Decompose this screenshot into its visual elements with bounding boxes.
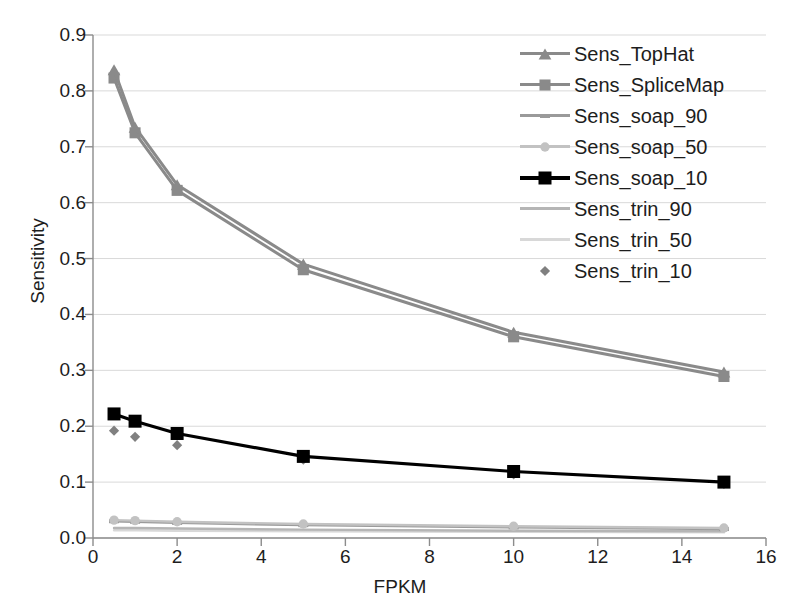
y-axis-title: Sensitivity — [27, 161, 49, 361]
legend-item-label: Sens_trin_90 — [574, 197, 692, 221]
y-tick-label: 0.2 — [34, 415, 86, 437]
x-tick-label: 0 — [68, 546, 118, 568]
data-point-square — [171, 427, 184, 440]
legend-key-icon — [516, 42, 574, 66]
legend-item[interactable]: Sens_soap_90 — [516, 100, 786, 131]
x-tick-label: 6 — [320, 546, 370, 568]
y-tick-label: 0.8 — [34, 80, 86, 102]
x-tick-label: 8 — [405, 546, 455, 568]
legend-item[interactable]: Sens_soap_50 — [516, 131, 786, 162]
data-point-triangle — [108, 64, 121, 75]
legend-item-label: Sens_soap_90 — [574, 104, 707, 128]
data-point-dash — [540, 114, 550, 118]
data-point-square — [717, 476, 730, 489]
series-sens-soap-10 — [108, 407, 731, 488]
data-point-circle — [540, 142, 549, 151]
data-point-circle — [172, 517, 181, 526]
legend-item[interactable]: Sens_trin_90 — [516, 193, 786, 224]
legend-item[interactable]: Sens_soap_10 — [516, 162, 786, 193]
legend-item[interactable]: Sens_trin_10 — [516, 255, 786, 286]
data-point-circle — [109, 515, 118, 524]
series-line — [114, 414, 724, 482]
legend-key-icon — [516, 104, 574, 128]
legend-marker-triangle-icon — [516, 42, 574, 66]
legend-marker-square-icon — [516, 166, 574, 190]
x-tick-label: 12 — [573, 546, 623, 568]
y-tick-label: 0.1 — [34, 471, 86, 493]
data-point-circle — [719, 523, 728, 532]
data-point-square — [507, 465, 520, 478]
data-point-diamond — [109, 426, 119, 436]
legend-item[interactable]: Sens_trin_50 — [516, 224, 786, 255]
data-point-diamond — [172, 440, 182, 450]
data-point-square — [108, 407, 121, 420]
legend-marker-none-icon — [516, 197, 574, 221]
legend-key-icon — [516, 197, 574, 221]
legend-item-label: Sens_trin_10 — [574, 259, 692, 283]
data-point-circle — [299, 519, 308, 528]
legend-marker-diamond-icon — [516, 259, 574, 283]
legend-key-icon — [516, 259, 574, 283]
legend-item-label: Sens_trin_50 — [574, 228, 692, 252]
legend-key-icon — [516, 166, 574, 190]
legend-item-label: Sens_TopHat — [574, 42, 694, 66]
y-tick-label: 0.9 — [34, 24, 86, 46]
data-point-square — [539, 79, 550, 90]
legend-marker-circle-icon — [516, 135, 574, 159]
legend-marker-square-icon — [516, 73, 574, 97]
data-point-circle — [130, 516, 139, 525]
legend-item-label: Sens_soap_50 — [574, 135, 707, 159]
data-point-square — [129, 415, 142, 428]
x-tick-label: 10 — [489, 546, 539, 568]
data-point-diamond — [540, 265, 550, 275]
y-tick-label: 0.3 — [34, 359, 86, 381]
legend-marker-dash-icon — [516, 104, 574, 128]
legend-marker-none-icon — [516, 228, 574, 252]
chart-legend: Sens_TopHatSens_SpliceMapSens_soap_90Sen… — [516, 38, 786, 286]
series-sens-trin-10 — [109, 426, 729, 489]
data-point-square — [539, 171, 552, 184]
x-tick-label: 16 — [741, 546, 791, 568]
data-point-square — [297, 450, 310, 463]
legend-key-icon — [516, 228, 574, 252]
legend-item-label: Sens_SpliceMap — [574, 73, 724, 97]
x-axis-title: FPKM — [0, 576, 800, 598]
y-tick-label: 0.7 — [34, 136, 86, 158]
x-tick-label: 14 — [657, 546, 707, 568]
sensitivity-line-chart: 0.00.10.20.30.40.50.60.70.80.9 024681012… — [0, 0, 800, 616]
data-point-circle — [509, 522, 518, 531]
legend-item-label: Sens_soap_10 — [574, 166, 707, 190]
legend-item[interactable]: Sens_SpliceMap — [516, 69, 786, 100]
legend-key-icon — [516, 135, 574, 159]
data-point-diamond — [130, 432, 140, 442]
legend-item[interactable]: Sens_TopHat — [516, 38, 786, 69]
data-point-triangle — [539, 48, 552, 59]
x-tick-label: 4 — [236, 546, 286, 568]
x-tick-label: 2 — [152, 546, 202, 568]
legend-key-icon — [516, 73, 574, 97]
x-axis-tick-labels: 0246810121416 — [0, 546, 800, 576]
